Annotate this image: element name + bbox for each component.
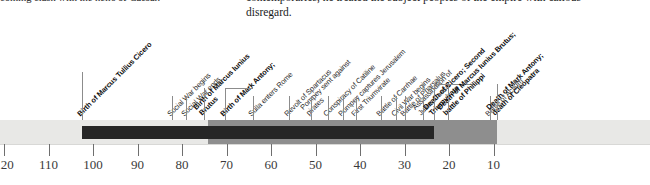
event-leader-line bbox=[343, 96, 344, 120]
event-leader-line bbox=[434, 84, 435, 120]
event-leader-line bbox=[186, 96, 187, 120]
event-leader-line bbox=[82, 72, 83, 120]
axis-tick bbox=[449, 144, 450, 156]
axis-tick-label: 10 bbox=[487, 157, 500, 173]
axis-baseline bbox=[0, 144, 650, 145]
axis-tick-label: 30 bbox=[398, 157, 411, 173]
event-leader-line bbox=[396, 96, 397, 120]
event-leader-line bbox=[204, 88, 205, 120]
event-labels-layer: Birth of Marcus Tullius CiceroSocial War… bbox=[0, 22, 650, 120]
timeline-axis: 120110100908070605040302010 bbox=[0, 144, 650, 185]
event-leader-line bbox=[497, 84, 498, 120]
axis-tick-label: 20 bbox=[443, 157, 456, 173]
page-text-left-column: coming clash with the heirs of Caesar. bbox=[0, 0, 240, 4]
axis-tick-label: 70 bbox=[220, 157, 233, 173]
event-leader-line bbox=[381, 96, 382, 120]
timeline-bars bbox=[0, 120, 650, 144]
axis-tick bbox=[227, 144, 228, 156]
axis-tick-label: 60 bbox=[265, 157, 278, 173]
event-label-line-1: Birth of Marcus Tullius Cicero bbox=[75, 40, 153, 118]
axis-tick-label: 50 bbox=[309, 157, 322, 173]
event-leader-bracket bbox=[225, 88, 253, 89]
timeline-figure: Birth of Marcus Tullius CiceroSocial War… bbox=[0, 22, 650, 185]
event-leader-line bbox=[328, 96, 329, 120]
page-text-right-column: contemporaries, he treated the subject p… bbox=[246, 0, 650, 19]
axis-tick bbox=[4, 144, 5, 156]
page-body-text: coming clash with the heirs of Caesar. c… bbox=[0, 0, 650, 22]
event-leader-line bbox=[311, 96, 312, 120]
axis-tick bbox=[271, 144, 272, 156]
axis-tick bbox=[138, 144, 139, 156]
event-leader-line bbox=[225, 88, 226, 120]
event-label: Birth of Marcus Tullius Cicero bbox=[76, 40, 154, 118]
event-leader-line bbox=[172, 96, 173, 120]
axis-tick-label: 90 bbox=[131, 157, 144, 173]
axis-tick-label: 110 bbox=[39, 157, 58, 173]
event-leader-line bbox=[405, 96, 406, 120]
event-leader-line bbox=[289, 96, 290, 120]
cicero-lifespan-bar bbox=[82, 126, 434, 139]
event-leader-line bbox=[356, 96, 357, 120]
axis-tick bbox=[494, 144, 495, 156]
axis-tick-label: 40 bbox=[354, 157, 367, 173]
axis-tick-label: 100 bbox=[83, 157, 103, 173]
axis-tick bbox=[360, 144, 361, 156]
page-text-right-line-2: disregard. bbox=[246, 6, 650, 20]
axis-tick bbox=[182, 144, 183, 156]
axis-tick bbox=[316, 144, 317, 156]
page-text-right-line-1: contemporaries, he treated the subject p… bbox=[246, 0, 581, 3]
event-leader-line bbox=[448, 84, 449, 120]
axis-tick-label: 120 bbox=[0, 157, 14, 173]
axis-tick bbox=[93, 144, 94, 156]
axis-tick-label: 80 bbox=[176, 157, 189, 173]
event-leader-line bbox=[253, 96, 254, 120]
axis-tick bbox=[405, 144, 406, 156]
axis-tick bbox=[49, 144, 50, 156]
